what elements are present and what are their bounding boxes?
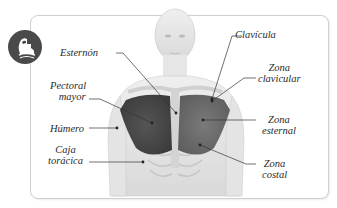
label-zona-esternal-line2: esternal [262,125,296,136]
label-caja-toracica: Caja torácica [48,144,83,166]
label-clavicula: Clavícula [235,29,276,40]
label-zona-costal-line1: Zona [262,158,287,169]
label-zona-clavicular-line1: Zona [258,62,301,73]
label-zona-clavicular: Zona clavicular [258,62,301,84]
label-zona-costal-line2: costal [262,169,287,180]
head [155,9,195,77]
flexed-arm-icon [8,30,42,64]
label-esternon: Esternón [60,47,98,58]
torso [108,76,244,196]
label-zona-costal: Zona costal [262,158,287,180]
label-zona-esternal: Zona esternal [262,114,296,136]
label-pectoral-line2: mayor [58,91,86,102]
label-caja-line1: Caja [48,144,83,155]
label-pectoral-line1: Pectoral [50,80,86,91]
label-zona-clavicular-line2: clavicular [258,73,301,84]
label-humero-text: Húmero [50,123,84,134]
label-caja-line2: torácica [48,155,83,166]
label-zona-esternal-line1: Zona [262,114,296,125]
label-clavicula-text: Clavícula [235,29,276,40]
label-pectoral-mayor: Pectoral mayor [50,80,86,102]
label-humero: Húmero [50,123,84,134]
label-esternon-text: Esternón [60,47,98,58]
